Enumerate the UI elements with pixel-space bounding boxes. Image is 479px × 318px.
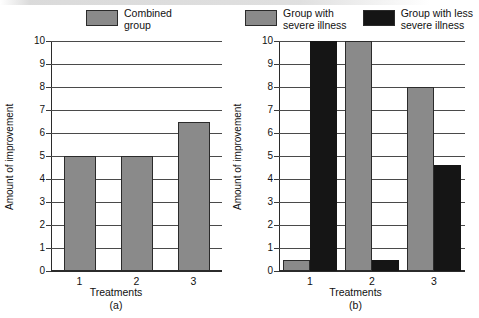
legend-swatch-less-severe-illness [363,10,395,26]
y-tick-label: 10 [262,36,273,46]
y-tick-label: 9 [267,59,273,69]
plot-area-a: 012345678910 123 [51,41,222,271]
legend-label-less-severe-illness: Group with less severe illness [401,8,473,31]
bar-group-a [51,41,222,271]
legend-label-severe-illness: Group with severe illness [283,8,347,31]
y-tick-label: 1 [39,243,45,253]
bar [345,41,372,271]
x-axis-label-a: Treatments [0,286,232,298]
bar [178,122,210,272]
legend-swatch-combined-group [86,10,118,26]
y-tick-label: 7 [39,105,45,115]
y-tick-label: 2 [267,220,273,230]
y-axis-label-a: Amount of improvement [4,80,15,210]
y-tick-label: 6 [39,128,45,138]
y-tick-label: 8 [39,82,45,92]
y-tick-label: 6 [267,128,273,138]
bar [121,156,153,271]
legend-entry-less-severe-illness: Group with less severe illness [363,8,473,31]
figure-two-bar-charts: Combined group Amount of improvement 012… [0,0,479,318]
y-tick-label: 4 [39,174,45,184]
bar [310,41,337,271]
bar [372,260,399,272]
legend-entry-combined-group: Combined group [86,8,172,31]
panel-caption-b: (b) [232,299,479,311]
panel-caption-a: (a) [0,299,232,311]
legend-entry-severe-illness: Group with severe illness [245,8,347,31]
chart-panel-b: Group with severe illness Group with les… [232,0,479,318]
bar [434,165,461,271]
y-tick-label: 0 [39,266,45,276]
y-tick-labels-b: 012345678910 [251,41,273,271]
y-axis-ticklet [46,271,51,272]
y-tick-label: 7 [267,105,273,115]
y-tick-label: 8 [267,82,273,92]
bar [407,87,434,271]
bar [283,260,310,272]
x-axis-label-b: Treatments [232,286,479,298]
plot-area-b: 012345678910 123 [279,41,465,271]
y-tick-label: 1 [267,243,273,253]
y-tick-label: 0 [267,266,273,276]
y-tick-label: 4 [267,174,273,184]
legend-a: Combined group [86,8,172,31]
y-tick-label: 3 [39,197,45,207]
y-axis-ticklet [274,271,279,272]
legend-b: Group with severe illness Group with les… [245,8,473,31]
y-tick-label: 5 [267,151,273,161]
y-tick-label: 5 [39,151,45,161]
legend-swatch-severe-illness [245,10,277,26]
y-axis-label-b: Amount of improvement [232,80,243,210]
bar [64,156,96,271]
y-tick-label: 3 [267,197,273,207]
y-tick-labels-a: 012345678910 [23,41,45,271]
bar-group-b [279,41,465,271]
chart-panel-a: Combined group Amount of improvement 012… [0,0,232,318]
legend-label-combined-group: Combined group [124,8,172,31]
y-tick-label: 2 [39,220,45,230]
y-tick-label: 10 [34,36,45,46]
y-tick-label: 9 [39,59,45,69]
